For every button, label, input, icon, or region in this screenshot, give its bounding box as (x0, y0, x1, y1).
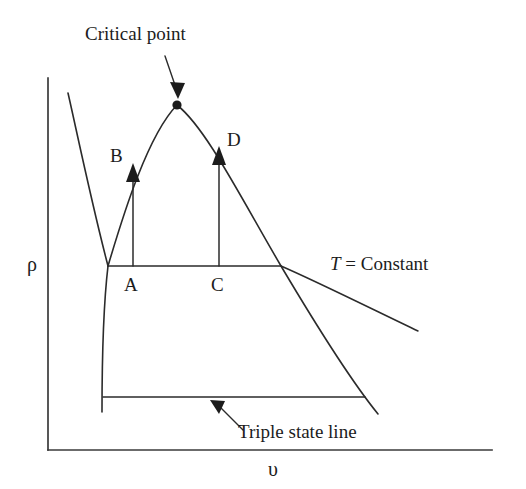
isotherm-group (108, 266, 418, 331)
process-arrow-a-to-b (126, 163, 140, 266)
critical-point-label: Critical point (85, 23, 187, 44)
phase-diagram-figure: Critical point T = Constant Triple state… (0, 0, 526, 489)
state-point-label-d: D (227, 129, 241, 150)
vapor-dome-left-lower (102, 266, 108, 412)
isotherm-label-rest: = Constant (341, 253, 429, 274)
y-axis-label: ρ (27, 253, 37, 276)
process-arrow-c-to-d (212, 146, 226, 266)
critical-point-leader-arrow (170, 82, 185, 99)
state-point-label-c: C (211, 274, 224, 295)
arrow-head-ab (126, 163, 140, 182)
arrow-head-cd (212, 146, 226, 165)
fusion-line (68, 93, 108, 266)
vapor-dome-left-upper (108, 105, 177, 266)
isotherm-vapor-branch (281, 266, 418, 331)
isotherm-label: T = Constant (330, 253, 429, 274)
critical-point-group (165, 56, 185, 110)
triple-state-line-label: Triple state line (238, 421, 357, 442)
phase-diagram-svg: Critical point T = Constant Triple state… (0, 0, 526, 489)
triple-line-leader-arrow (210, 400, 225, 414)
x-axis-label: υ (268, 458, 278, 480)
state-point-label-a: A (124, 274, 138, 295)
critical-point-dot (172, 100, 181, 109)
fusion-line-group (68, 93, 108, 266)
state-point-label-b: B (110, 145, 123, 166)
